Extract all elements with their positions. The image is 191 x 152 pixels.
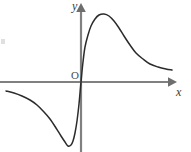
graph-canvas xyxy=(0,0,191,152)
figure-root: y x O xyxy=(0,0,191,152)
y-axis-label: y xyxy=(72,0,77,12)
origin-label: O xyxy=(71,70,79,81)
function-curve xyxy=(6,14,172,146)
y-axis-arrowhead xyxy=(76,3,86,12)
axes-group xyxy=(0,3,177,152)
edge-artifact-speck xyxy=(1,39,5,44)
curve-group xyxy=(6,14,172,146)
x-axis-label: x xyxy=(176,86,181,98)
